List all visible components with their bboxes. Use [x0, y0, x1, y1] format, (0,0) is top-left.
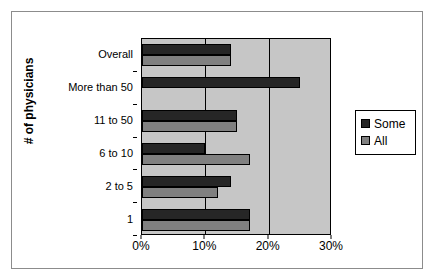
y-axis-tick	[133, 202, 137, 203]
x-axis-tick-label: 30%	[319, 239, 343, 253]
plot-area	[141, 38, 331, 235]
bar-all	[142, 55, 231, 66]
bar-some	[142, 176, 231, 187]
bar-all	[142, 187, 218, 198]
y-axis-tick	[133, 235, 137, 236]
y-axis-label: 6 to 10	[99, 147, 133, 159]
bars-layer	[142, 39, 330, 234]
bar-group	[142, 209, 330, 231]
y-axis-tick	[133, 71, 137, 72]
bar-group	[142, 176, 330, 198]
x-axis-tick-label: 10%	[192, 239, 216, 253]
legend-item: All	[361, 132, 410, 149]
chart-legend: SomeAll	[355, 110, 416, 155]
bar-group	[142, 143, 330, 165]
y-axis-label: 1	[127, 213, 133, 225]
bar-group	[142, 44, 330, 66]
legend-swatch-icon	[361, 136, 370, 145]
bar-group	[142, 77, 330, 99]
y-axis-label: 2 to 5	[105, 180, 133, 192]
x-axis-tick-label: 0%	[132, 239, 149, 253]
bar-some	[142, 209, 250, 220]
legend-label: Some	[374, 117, 405, 131]
legend-item: Some	[361, 115, 410, 132]
x-axis-tick-label: 20%	[256, 239, 280, 253]
bar-group	[142, 110, 330, 132]
bar-some	[142, 110, 237, 121]
y-axis-title: # of physicians	[22, 31, 36, 171]
bar-some	[142, 44, 231, 55]
bar-some	[142, 77, 300, 88]
bar-all	[142, 220, 250, 231]
legend-label: All	[374, 134, 387, 148]
y-axis-tick	[133, 169, 137, 170]
y-axis-label: Overall	[98, 48, 133, 60]
x-axis-tick-labels: 0%10%20%30%	[141, 239, 331, 259]
y-axis-label: More than 50	[68, 81, 133, 93]
y-axis-tick	[133, 104, 137, 105]
bar-all	[142, 154, 250, 165]
y-axis-tick	[133, 137, 137, 138]
legend-swatch-icon	[361, 119, 370, 128]
bar-all	[142, 121, 237, 132]
y-axis-label: 11 to 50	[94, 114, 133, 126]
y-axis-category-labels: OverallMore than 5011 to 506 to 102 to 5…	[40, 38, 137, 235]
chart-figure: # of physicians OverallMore than 5011 to…	[0, 0, 436, 280]
bar-some	[142, 143, 205, 154]
